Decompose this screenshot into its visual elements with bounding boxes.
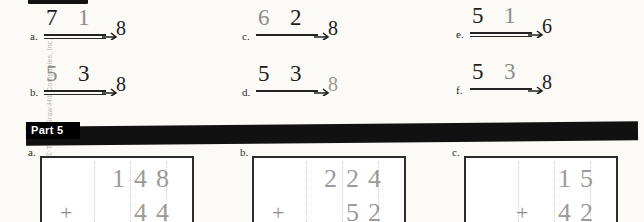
part5-label: a. xyxy=(28,146,36,158)
exercise-label: a. xyxy=(30,30,38,42)
exercise-second-number: 1 xyxy=(78,6,90,29)
part5-divider-bar xyxy=(26,121,638,145)
exercise-answer: 8 xyxy=(116,74,126,94)
part5-bottom-number: 52 xyxy=(346,200,390,222)
exercise-rule-second xyxy=(44,94,106,95)
exercise-first-number: 6 xyxy=(258,6,270,29)
part5-bottom-number: 44 xyxy=(134,200,178,222)
exercise-first-number: 5 xyxy=(472,60,484,83)
part5-label: b. xyxy=(240,146,248,158)
part5-answer-box[interactable]: 224 + 52 xyxy=(252,156,406,222)
exercise-answer: 8 xyxy=(542,72,552,92)
part5-problem-row: a. 148 + 44 b. 224 xyxy=(0,146,644,222)
exercise-first-number: 5 xyxy=(258,62,270,85)
exercise-first-number: 7 xyxy=(46,6,58,29)
part5-label: c. xyxy=(452,146,460,158)
part5-title: Part 5 xyxy=(31,124,63,136)
exercise-label: c. xyxy=(242,30,250,42)
exercise-rule xyxy=(256,90,318,92)
part5-top-number: 224 xyxy=(324,166,390,192)
exercise-first-number: 5 xyxy=(46,62,58,85)
part5-box-inner: 224 + 52 xyxy=(254,158,404,222)
exercise-answer: 8 xyxy=(328,18,338,38)
exercise-label: e. xyxy=(456,28,464,40)
exercise-second-number: 1 xyxy=(504,4,516,27)
exercise-label: d. xyxy=(242,86,250,98)
part5-top-number: 148 xyxy=(112,166,178,192)
part5-answer-box[interactable]: 148 + 44 xyxy=(40,156,194,222)
guide-line xyxy=(94,162,95,222)
exercise-answer: 6 xyxy=(542,16,552,36)
exercise-first-number: 5 xyxy=(472,4,484,27)
part5-box-inner: 15 + 42 xyxy=(466,158,616,222)
plus-icon: + xyxy=(516,200,528,222)
exercise-second-number: 2 xyxy=(290,6,302,29)
exercise-rule xyxy=(44,90,106,92)
part5-box-inner: 148 + 44 xyxy=(42,158,192,222)
worksheet-page: Copyright © The McGraw-Hill Companies, I… xyxy=(0,0,644,222)
exercise-label: f. xyxy=(456,84,462,96)
part5-answer-box[interactable]: 15 + 42 xyxy=(464,156,618,222)
exercise-rule xyxy=(470,88,532,90)
exercise-second-number: 3 xyxy=(290,62,302,85)
exercise-second-number: 3 xyxy=(504,60,516,83)
exercise-rule-second xyxy=(44,38,106,39)
exercise-grid: a. 7 1 8 b. 5 3 xyxy=(0,0,644,122)
plus-icon: + xyxy=(272,200,284,222)
exercise-second-number: 3 xyxy=(78,62,90,85)
part5-bottom-number: 42 xyxy=(558,200,602,222)
exercise-answer: 8 xyxy=(328,74,338,94)
guide-line xyxy=(554,162,555,222)
guide-line xyxy=(306,162,307,222)
exercise-rule-second xyxy=(470,36,532,37)
exercise-label: b. xyxy=(30,86,38,98)
exercise-answer: 8 xyxy=(116,18,126,38)
exercise-rule xyxy=(470,32,532,34)
plus-icon: + xyxy=(60,200,72,222)
exercise-rule xyxy=(44,34,106,36)
part5-top-number: 15 xyxy=(558,166,602,192)
exercise-rule xyxy=(256,34,318,36)
